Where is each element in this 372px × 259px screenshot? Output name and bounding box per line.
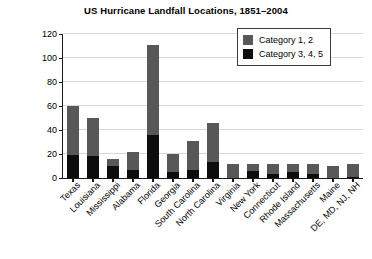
legend-item-category-3-4-5: Category 3, 4, 5 [243,47,323,61]
legend-swatch-category-1-2 [243,35,253,45]
y-tick-label: 100 [31,53,57,63]
hurricane-bar-chart: US Hurricane Landfall Locations, 1851–20… [0,0,372,259]
chart-legend: Category 1, 2 Category 3, 4, 5 [237,28,331,66]
legend-label-category-3-4-5: Category 3, 4, 5 [259,49,323,59]
legend-item-category-1-2: Category 1, 2 [243,33,323,47]
y-tick-label: 0 [31,173,57,183]
x-axis-labels: TexasLouisianaMississippiAlabamaFloridaG… [62,180,372,259]
chart-title: US Hurricane Landfall Locations, 1851–20… [0,5,372,16]
y-tick-label: 40 [31,125,57,135]
y-tick-label: 60 [31,101,57,111]
bar-column [67,106,79,178]
bar-segment-category-3-4-5 [67,155,79,178]
legend-swatch-category-3-4-5 [243,49,253,59]
y-tick-label: 80 [31,77,57,87]
legend-label-category-1-2: Category 1, 2 [259,35,313,45]
y-tick-label: 20 [31,149,57,159]
y-tick-label: 120 [31,29,57,39]
